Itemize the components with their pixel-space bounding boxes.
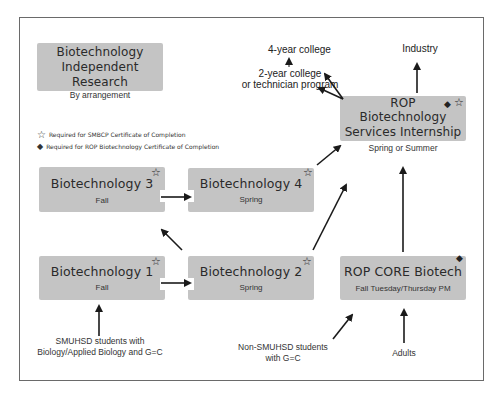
flow-arrows (0, 0, 498, 396)
arrow-bio2-to-internship (313, 185, 346, 250)
arrow-nonsmuhsd-to-core (333, 315, 352, 339)
arrow-bio2-to-bio3 (162, 230, 182, 250)
arrow-bio4-to-internship (317, 146, 340, 165)
